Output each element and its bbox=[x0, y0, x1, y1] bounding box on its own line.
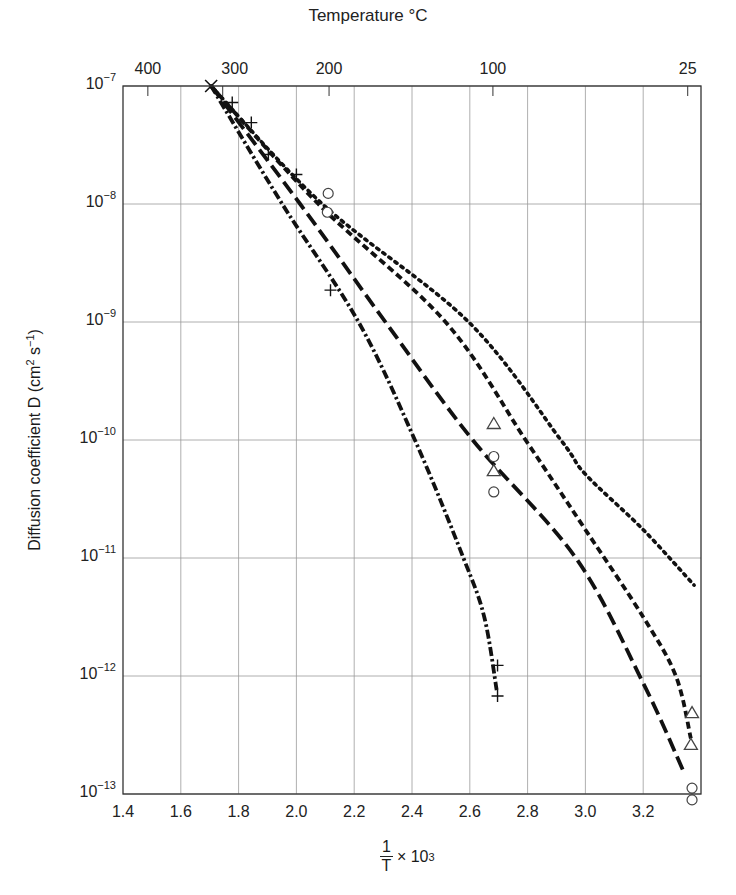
x-tick-label: 1.4 bbox=[103, 803, 143, 821]
fraction-numerator: 1 bbox=[380, 838, 393, 857]
y-tick-label: 10−13 bbox=[56, 781, 116, 801]
y-tick-label: 10−12 bbox=[56, 663, 116, 683]
grid-lines bbox=[123, 86, 701, 794]
circle-marker bbox=[687, 783, 697, 793]
x-tick-label: 2.0 bbox=[276, 803, 316, 821]
y-label-suffix: ) bbox=[26, 329, 43, 334]
x-label-exponent: 3 bbox=[429, 851, 435, 863]
y-label-mid: s bbox=[26, 347, 43, 359]
circle-marker bbox=[489, 452, 499, 462]
y-tick-label: 10−7 bbox=[56, 73, 116, 93]
fraction: 1 T bbox=[380, 838, 393, 875]
y-tick-label: 10−11 bbox=[56, 545, 116, 565]
y-label-prefix: Diffusion coefficient D (cm bbox=[26, 366, 43, 551]
top-tick-label: 300 bbox=[215, 60, 255, 78]
circle-marker bbox=[687, 795, 697, 805]
triangle-marker bbox=[487, 417, 500, 428]
top-axis-ticks bbox=[148, 86, 688, 96]
y-tick-label: 10−9 bbox=[56, 309, 116, 329]
x-tick-label: 2.2 bbox=[334, 803, 374, 821]
y-axis-label: Diffusion coefficient D (cm2 s−1) bbox=[24, 329, 44, 551]
data-series bbox=[211, 86, 694, 770]
x-tick-label: 1.6 bbox=[161, 803, 201, 821]
circle-marker bbox=[489, 487, 499, 497]
circle-marker bbox=[323, 188, 333, 198]
x-tick-label: 3.2 bbox=[623, 803, 663, 821]
fraction-denominator: T bbox=[382, 857, 392, 875]
top-tick-label: 400 bbox=[128, 60, 168, 78]
x-tick-label: 2.8 bbox=[508, 803, 548, 821]
x-axis-label: 1 T × 103 bbox=[380, 838, 435, 875]
top-tick-label: 25 bbox=[668, 60, 708, 78]
triangle-marker bbox=[684, 738, 697, 749]
series-dotted bbox=[211, 86, 694, 585]
chart-canvas bbox=[0, 0, 736, 895]
y-tick-label: 10−10 bbox=[56, 427, 116, 447]
y-label-exp1: 2 bbox=[24, 359, 36, 365]
top-tick-label: 200 bbox=[309, 60, 349, 78]
y-label-exp2: −1 bbox=[24, 334, 36, 347]
y-tick-label: 10−8 bbox=[56, 191, 116, 211]
series-long-dashed bbox=[211, 86, 683, 770]
triangle-marker bbox=[487, 465, 500, 476]
x-tick-label: 1.8 bbox=[219, 803, 259, 821]
x-tick-label: 2.4 bbox=[392, 803, 432, 821]
top-axis-title: Temperature °C bbox=[0, 6, 736, 26]
x-tick-label: 3.0 bbox=[565, 803, 605, 821]
plus-marker bbox=[492, 690, 504, 702]
x-label-suffix: × 10 bbox=[397, 848, 429, 866]
data-markers bbox=[205, 80, 698, 805]
circle-marker bbox=[322, 207, 332, 217]
top-tick-label: 100 bbox=[473, 60, 513, 78]
x-tick-label: 2.6 bbox=[450, 803, 490, 821]
